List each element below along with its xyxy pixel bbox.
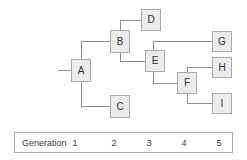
node-I-label: I [221,99,224,109]
node-H-label: H [218,63,225,73]
node-D[interactable]: D [141,9,161,31]
generation-number-4: 4 [177,139,191,148]
node-H[interactable]: H [212,57,232,78]
edge-E-to-G [154,42,213,51]
generation-number-1: 1 [68,139,82,148]
generation-number-5: 5 [212,139,226,148]
node-F-label: F [184,78,190,88]
edge-F-to-I [188,94,213,104]
generation-number-3: 3 [142,139,156,148]
node-C[interactable]: C [110,95,130,118]
node-E[interactable]: E [145,50,165,72]
node-B[interactable]: B [110,30,130,53]
node-B-label: B [117,37,124,47]
node-E-label: E [152,56,159,66]
edge-E-to-F [154,72,178,84]
node-A[interactable]: A [71,59,91,82]
edge-A-to-B [82,42,111,60]
edge-B-to-D [121,21,142,31]
edge-A-to-C [82,82,111,107]
node-I[interactable]: I [212,93,232,114]
node-C-label: C [116,102,123,112]
pedigree-diagram-page: A B C D E F G H I Generation 1 2 3 4 5 [0,0,247,160]
node-F[interactable]: F [177,72,197,94]
node-A-label: A [78,66,85,76]
generation-number-2: 2 [107,139,121,148]
node-G-label: G [218,37,226,47]
edge-B-to-E [121,53,146,62]
node-G[interactable]: G [212,31,232,52]
generation-bar: Generation 1 2 3 4 5 [14,132,233,153]
node-D-label: D [147,15,154,25]
generation-label: Generation [22,139,67,148]
